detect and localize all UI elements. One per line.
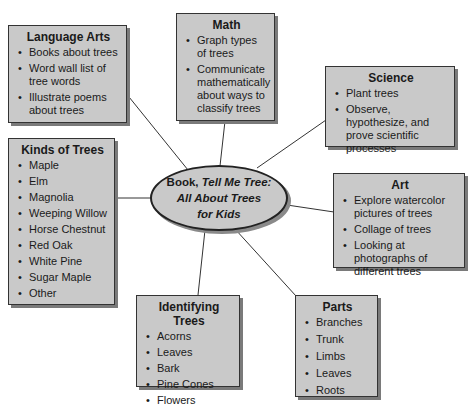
node-parts: Parts Branches Trunk Limbs Leaves Roots <box>295 295 378 397</box>
list-item: Collage of trees <box>342 223 458 236</box>
list-item: Flowers <box>145 394 233 407</box>
node-language-arts: Language Arts Books about trees Word wal… <box>8 25 127 123</box>
list-item: Magnolia <box>17 191 108 204</box>
list-item: Word wall list of tree words <box>17 62 120 88</box>
list-item: Sugar Maple <box>17 271 108 284</box>
list-item: Communicate mathematically about ways to… <box>185 63 268 115</box>
list-item: Weeping Willow <box>17 207 108 220</box>
list-item: Leaves <box>145 346 233 359</box>
node-title: Math <box>185 18 268 32</box>
list-item: Graph types of trees <box>185 34 268 60</box>
list-item: Pine Cones <box>145 378 233 391</box>
list-item: Maple <box>17 159 108 172</box>
center-prefix: Book, <box>167 176 202 188</box>
node-math: Math Graph types of trees Communicate ma… <box>176 13 275 121</box>
list-item: Observe, hypothesize, and prove scientif… <box>334 103 448 155</box>
list-item: Acorns <box>145 330 233 343</box>
list-item: Branches <box>304 316 371 329</box>
node-title: Kinds of Trees <box>17 143 108 157</box>
node-art: Art Explore watercolor pictures of trees… <box>333 173 465 268</box>
center-title-3: for Kids <box>197 208 240 220</box>
list-item: White Pine <box>17 255 108 268</box>
list-item: Elm <box>17 175 108 188</box>
center-topic: Book, Tell Me Tree: All About Trees for … <box>150 165 288 231</box>
list-item: Trunk <box>304 333 371 346</box>
list-item: Looking at photographs of different tree… <box>342 239 458 278</box>
list-item: Books about trees <box>17 46 120 59</box>
list-item: Illustrate poems about trees <box>17 91 120 117</box>
node-title: Language Arts <box>17 30 120 44</box>
list-item: Leaves <box>304 367 371 380</box>
list-item: Horse Chestnut <box>17 223 108 236</box>
list-item: Plant trees <box>334 87 448 100</box>
list-item: Explore watercolor pictures of trees <box>342 194 458 220</box>
node-identifying-trees: Identifying Trees Acorns Leaves Bark Pin… <box>136 295 240 387</box>
node-title: Parts <box>304 300 371 314</box>
center-title-1: Tell Me Tree: <box>202 176 272 188</box>
node-kinds-of-trees: Kinds of Trees Maple Elm Magnolia Weepin… <box>8 138 115 305</box>
node-science: Science Plant trees Observe, hypothesize… <box>325 66 455 147</box>
node-title: Art <box>342 178 458 192</box>
node-title: Identifying Trees <box>145 300 233 328</box>
list-item: Limbs <box>304 350 371 363</box>
list-item: Red Oak <box>17 239 108 252</box>
list-item: Other <box>17 287 108 300</box>
list-item: Bark <box>145 362 233 375</box>
list-item: Roots <box>304 384 371 397</box>
node-title: Science <box>334 71 448 85</box>
center-title-2: All About Trees <box>177 192 261 204</box>
